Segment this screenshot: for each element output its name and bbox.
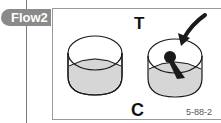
left-cup-icon xyxy=(68,36,122,95)
cups-illustration xyxy=(0,0,221,123)
right-cup-icon xyxy=(148,39,202,97)
bottom-label: C xyxy=(131,100,144,121)
arrow-icon xyxy=(178,15,205,46)
figure-code: 5-88-2 xyxy=(186,107,212,117)
top-label: T xyxy=(134,14,144,34)
